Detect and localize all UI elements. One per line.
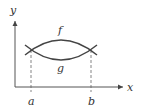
point-b-label: b bbox=[88, 95, 95, 108]
x-axis-label: x bbox=[127, 81, 134, 94]
curve-g-label: g bbox=[57, 62, 64, 75]
y-axis-label: y bbox=[9, 4, 17, 17]
area-between-curves-diagram: y x f g a b bbox=[0, 0, 149, 111]
curve-f-label: f bbox=[57, 24, 64, 37]
point-a-label: a bbox=[28, 95, 35, 108]
diagram-canvas: y x f g a b bbox=[0, 0, 149, 111]
